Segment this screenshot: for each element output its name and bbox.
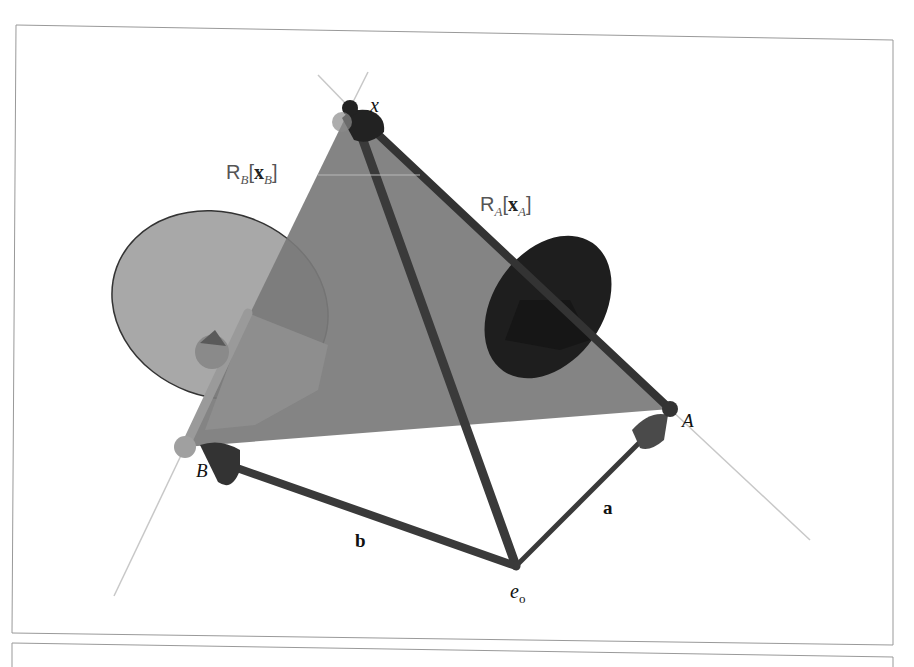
- label-RB-main: R: [226, 161, 240, 183]
- label-RB: RB[xB]: [226, 161, 277, 188]
- label-RB-arg-sub: B: [264, 172, 272, 187]
- diagram-canvas: [0, 0, 914, 667]
- lower-panel-frame: [12, 643, 893, 667]
- label-RA: RA[xA]: [480, 193, 531, 220]
- point-x-light: [332, 112, 352, 132]
- label-e0-main: e: [510, 580, 519, 602]
- point-A: [662, 401, 678, 417]
- label-A: A: [682, 410, 694, 432]
- label-RA-close: ]: [526, 193, 532, 215]
- point-B-light: [174, 436, 196, 458]
- label-vector-a: a: [603, 497, 613, 519]
- label-x: x: [370, 94, 379, 117]
- label-RA-arg-sub: A: [518, 204, 526, 219]
- label-e0: eo: [510, 580, 525, 607]
- label-RB-close: ]: [272, 161, 278, 183]
- label-vector-b: b: [355, 530, 366, 552]
- label-B: B: [196, 460, 208, 482]
- label-RA-main: R: [480, 193, 494, 215]
- label-RA-arg: x: [508, 193, 518, 215]
- label-RB-arg: x: [254, 161, 264, 183]
- label-e0-sub: o: [519, 591, 526, 606]
